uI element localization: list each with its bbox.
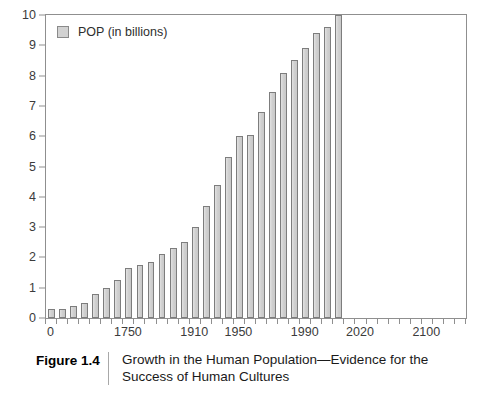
x-tick-mark (266, 319, 267, 324)
y-tick-mark (39, 227, 45, 228)
x-axis-labels: 0175019101950199020202100 (45, 325, 467, 343)
x-tick-mark (377, 319, 378, 324)
x-tick-mark (310, 319, 311, 324)
y-tick-label: 0 (29, 311, 36, 325)
x-tick-mark (111, 319, 112, 324)
bar (214, 185, 221, 318)
x-tick-mark (443, 319, 444, 324)
y-tick-label: 10 (22, 8, 36, 22)
x-tick-label: 2020 (346, 325, 374, 339)
x-tick-mark (421, 319, 422, 324)
y-tick-label: 1 (29, 281, 36, 295)
x-tick-mark (244, 319, 245, 324)
x-tick-mark (67, 319, 68, 324)
x-tick-label: 1990 (291, 325, 319, 339)
x-tick-mark (399, 319, 400, 324)
y-tick-mark (39, 287, 45, 288)
y-tick-label: 3 (29, 220, 36, 234)
bar (181, 242, 188, 318)
bar (302, 48, 309, 318)
bar (125, 268, 132, 318)
y-tick-mark (39, 105, 45, 106)
x-tick-mark (388, 319, 389, 324)
figure-caption: Figure 1.4 Growth in the Human Populatio… (36, 352, 456, 385)
bar (324, 27, 331, 318)
bar (148, 262, 155, 318)
y-tick-label: 8 (29, 69, 36, 83)
bars-layer (46, 15, 466, 318)
x-tick-mark (299, 319, 300, 324)
y-tick-mark (39, 136, 45, 137)
chart-legend: POP (in billions) (57, 25, 167, 39)
y-tick-label: 5 (29, 160, 36, 174)
y-tick-mark (39, 45, 45, 46)
bar (137, 265, 144, 318)
x-tick-mark (156, 319, 157, 324)
x-tick-label: 2100 (412, 325, 440, 339)
bar (159, 254, 166, 318)
figure-number: Figure 1.4 (36, 352, 108, 368)
x-tick-mark (222, 319, 223, 324)
bar (114, 280, 121, 318)
bar (103, 288, 110, 318)
caption-divider (108, 352, 109, 385)
y-tick-label: 2 (29, 250, 36, 264)
bar (269, 92, 276, 318)
bar (313, 33, 320, 318)
y-tick-label: 9 (29, 38, 36, 52)
y-tick-mark (39, 257, 45, 258)
x-tick-mark (354, 319, 355, 324)
bar (225, 157, 232, 318)
y-tick-label: 4 (29, 190, 36, 204)
y-tick-mark (39, 196, 45, 197)
x-tick-mark (343, 319, 344, 324)
x-tick-mark (45, 319, 46, 324)
bar (70, 306, 77, 318)
x-tick-mark (56, 319, 57, 324)
x-tick-mark (288, 319, 289, 324)
bar (291, 60, 298, 318)
bar (92, 294, 99, 318)
bar (247, 135, 254, 318)
legend-label: POP (in billions) (78, 25, 167, 39)
bar (81, 303, 88, 318)
y-tick-mark (39, 166, 45, 167)
y-axis: 012345678910 (0, 0, 45, 333)
bar (48, 309, 55, 318)
x-tick-mark (454, 319, 455, 324)
x-tick-label: 1950 (225, 325, 253, 339)
x-tick-mark (465, 319, 466, 324)
x-tick-mark (100, 319, 101, 324)
x-tick-mark (321, 319, 322, 324)
bar (335, 15, 342, 318)
y-tick-mark (39, 75, 45, 76)
y-tick-label: 6 (29, 129, 36, 143)
x-tick-mark (78, 319, 79, 324)
x-tick-mark (133, 319, 134, 324)
x-tick-label: 0 (47, 325, 54, 339)
x-tick-mark (167, 319, 168, 324)
bar (258, 112, 265, 318)
x-tick-mark (432, 319, 433, 324)
x-tick-mark (89, 319, 90, 324)
bar (236, 136, 243, 318)
caption-text: Growth in the Human Population—Evidence … (122, 352, 434, 385)
bar (170, 248, 177, 318)
y-tick-mark (39, 15, 45, 16)
x-tick-mark (122, 319, 123, 324)
x-tick-mark (178, 319, 179, 324)
bar (59, 309, 66, 318)
x-tick-label: 1910 (180, 325, 208, 339)
x-tick-mark (410, 319, 411, 324)
bar (280, 73, 287, 318)
x-tick-mark (189, 319, 190, 324)
x-tick-mark (211, 319, 212, 324)
x-tick-mark (200, 319, 201, 324)
y-tick-label: 7 (29, 99, 36, 113)
x-tick-label: 1750 (114, 325, 142, 339)
x-tick-mark (144, 319, 145, 324)
legend-swatch-icon (57, 26, 69, 38)
x-tick-mark (332, 319, 333, 324)
x-tick-mark (366, 319, 367, 324)
x-tick-mark (233, 319, 234, 324)
